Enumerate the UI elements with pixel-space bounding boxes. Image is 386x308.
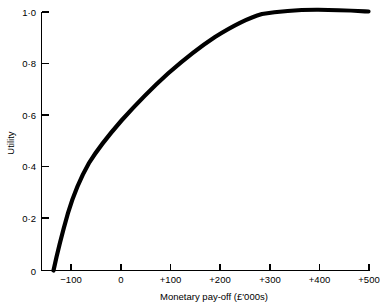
y-tick-label-1-0: 1·0 [22, 7, 36, 18]
chart-canvas: 0 0·2 0·4 0·6 0·8 1·0 −100 0 +100 +200 +… [0, 0, 386, 308]
x-tick-label-0: 0 [118, 274, 123, 285]
x-tick-label-plus100: +100 [160, 274, 181, 285]
y-axis-ticks [42, 12, 49, 218]
y-axis-title: Utility [5, 131, 16, 154]
y-tick-label-0-8: 0·8 [22, 58, 36, 69]
y-tick-label-0: 0 [31, 266, 36, 277]
y-axis-tick-labels: 0 0·2 0·4 0·6 0·8 1·0 [22, 7, 36, 277]
y-tick-label-0-4: 0·4 [22, 161, 36, 172]
y-tick-label-0-6: 0·6 [22, 110, 36, 121]
x-tick-label-plus500: +500 [358, 274, 379, 285]
x-tick-label-plus200: +200 [209, 274, 230, 285]
utility-curve-chart: 0 0·2 0·4 0·6 0·8 1·0 −100 0 +100 +200 +… [0, 0, 386, 308]
x-axis-ticks [71, 264, 369, 271]
y-tick-label-0-2: 0·2 [22, 213, 36, 224]
x-axis-title: Monetary pay-off (£'000s) [160, 291, 268, 302]
x-tick-label-plus300: +300 [259, 274, 280, 285]
utility-curve-line [54, 10, 369, 271]
x-tick-label-minus100: −100 [60, 274, 81, 285]
x-axis-tick-labels: −100 0 +100 +200 +300 +400 +500 [60, 274, 379, 285]
x-tick-label-plus400: +400 [309, 274, 330, 285]
